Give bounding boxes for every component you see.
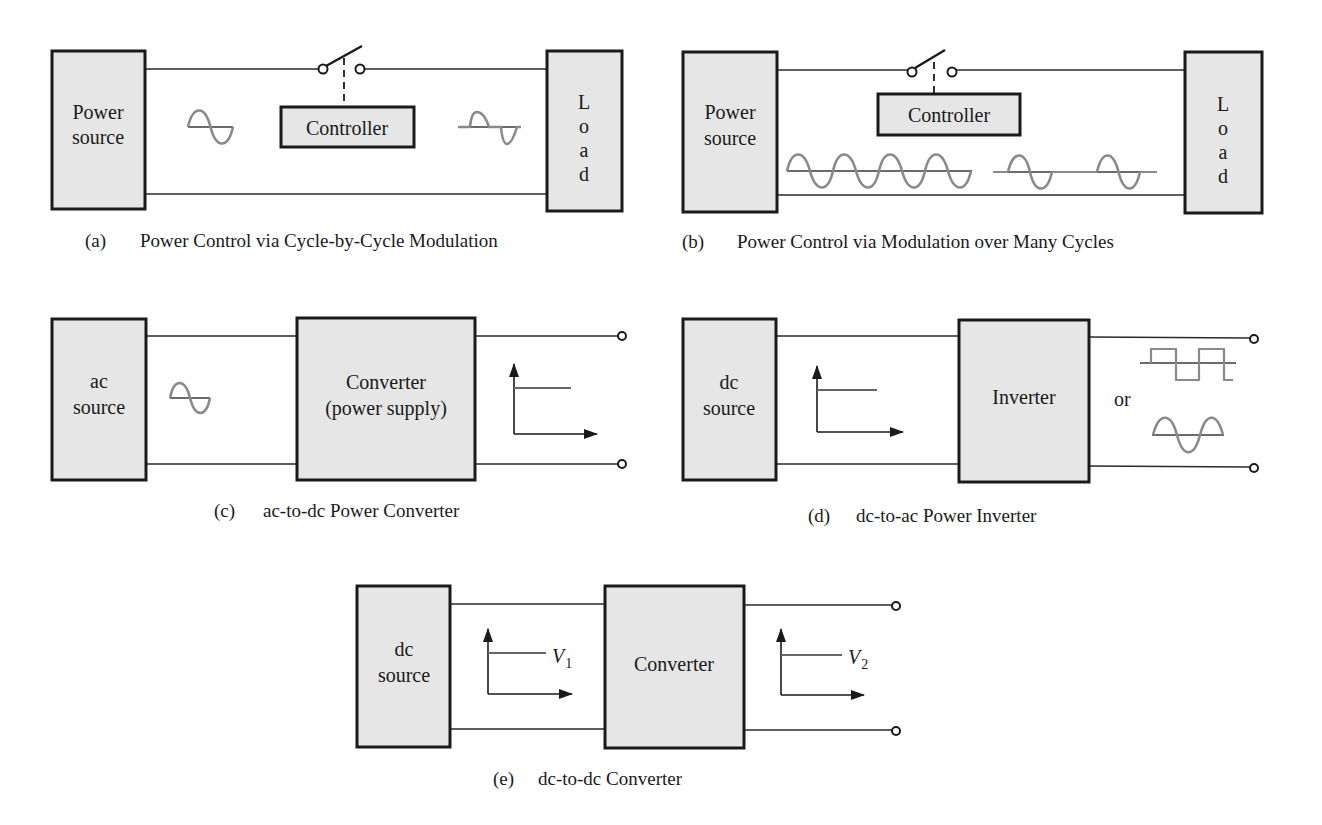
source-label-line2: source (73, 396, 125, 418)
load-letter: L (1217, 93, 1229, 115)
square-wave-icon (1140, 349, 1236, 380)
caption: dc-to-ac Power Inverter (856, 505, 1037, 526)
panel-a: Power source Controller L o a d (a) Powe… (52, 46, 622, 252)
v1-label: V1 (552, 645, 572, 671)
dc-level-plot-v2: V2 (781, 629, 868, 695)
caption-tag: (e) (493, 768, 514, 790)
caption-tag: (c) (214, 500, 235, 522)
sine-wave-icon (188, 111, 233, 144)
output-terminal (618, 460, 626, 468)
block-label: Inverter (992, 386, 1056, 408)
sine-wave-icon (170, 383, 210, 413)
continuous-sine-icon (787, 155, 972, 188)
load-letter: L (578, 91, 590, 113)
caption: Power Control via Modulation over Many C… (737, 231, 1114, 252)
or-label: or (1114, 388, 1131, 410)
source-label-line1: dc (720, 371, 739, 393)
power-electronics-figure: Power source Controller L o a d (a) Powe… (0, 0, 1322, 825)
block-label-line1: Converter (346, 371, 426, 393)
output-terminal (618, 332, 626, 340)
caption-tag: (b) (682, 231, 704, 253)
dc-level-plot-v1: V1 (488, 629, 572, 694)
output-terminal (1250, 335, 1258, 343)
source-label-line1: Power (704, 101, 755, 123)
output-terminal (892, 602, 900, 610)
phase-controlled-sine-icon (458, 112, 521, 144)
caption-tag: (a) (85, 230, 106, 252)
caption-tag: (d) (808, 505, 830, 527)
sine-wave-icon (1152, 418, 1224, 453)
source-label-line1: Power (72, 101, 123, 123)
burst-sine-icon (993, 156, 1157, 189)
load-letter: a (580, 139, 589, 161)
switch-icon (908, 50, 957, 77)
caption: Power Control via Cycle-by-Cycle Modulat… (140, 230, 498, 251)
block-label: Converter (634, 653, 714, 675)
source-label-line2: source (378, 664, 430, 686)
controller-label: Controller (306, 117, 389, 139)
panel-d: dc source Inverter or (d) dc-to-ac Power… (683, 319, 1258, 527)
output-terminal (892, 727, 900, 735)
source-label-line1: ac (90, 370, 108, 392)
output-terminal (1250, 464, 1258, 472)
load-letter: d (1218, 165, 1228, 187)
load-letter: o (579, 115, 589, 137)
dc-level-plot (817, 366, 903, 432)
source-label-line2: source (72, 126, 124, 148)
dc-level-plot (514, 364, 597, 434)
source-label-line2: source (704, 127, 756, 149)
load-letter: o (1218, 117, 1228, 139)
load-letter: a (1219, 141, 1228, 163)
top-wire-out (1089, 337, 1250, 338)
panel-c: ac source Converter (power supply) (c) a… (52, 318, 626, 522)
controller-label: Controller (908, 104, 991, 126)
switch-icon (319, 46, 365, 74)
panel-e: dc source Converter V1 V2 (e) dc-to-dc C… (357, 586, 900, 790)
caption: dc-to-dc Converter (538, 768, 683, 789)
caption: ac-to-dc Power Converter (263, 500, 460, 521)
bottom-wire-out (1089, 466, 1250, 467)
source-label-line2: source (703, 397, 755, 419)
panel-b: Power source Controller L o a d (b) Powe… (682, 50, 1262, 253)
block-label-line2: (power supply) (325, 397, 447, 420)
source-label-line1: dc (395, 638, 414, 660)
v2-label: V2 (848, 646, 868, 672)
load-letter: d (579, 163, 589, 185)
